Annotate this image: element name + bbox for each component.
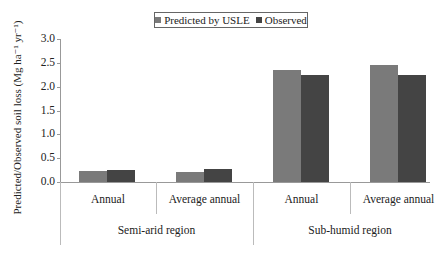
y-tick-0-5: 0.5	[25, 151, 55, 163]
y-tick-mark	[57, 39, 61, 40]
y-tick-mark	[57, 134, 61, 135]
y-tick-2: 2.0	[25, 80, 55, 92]
bar-subhumid-annual-predicted	[273, 70, 301, 182]
legend-item-observed: Observed	[256, 14, 307, 26]
group-label-subhumid: Sub-humid region	[253, 224, 447, 236]
y-tick-0: 0.0	[25, 175, 55, 187]
y-axis-label: Predicted/Observed soil loss (Mg ha⁻¹ yr…	[11, 25, 24, 215]
legend-label-predicted: Predicted by USLE	[164, 14, 250, 26]
category-label: Annual	[253, 193, 350, 205]
bar-subhumid-avg-predicted	[370, 65, 398, 182]
bar-subhumid-avg-observed	[398, 75, 426, 182]
y-tick-mark	[57, 63, 61, 64]
y-tick-mark	[57, 111, 61, 112]
legend-swatch-observed	[256, 17, 262, 23]
bar-subhumid-annual-observed	[301, 75, 329, 182]
category-label: Average annual	[156, 193, 253, 205]
bar-semiarid-annual-observed	[107, 170, 135, 182]
y-tick-2-5: 2.5	[25, 56, 55, 68]
legend: Predicted by USLE Observed	[154, 12, 308, 28]
x-axis-line	[60, 182, 430, 183]
y-tick-mark	[57, 158, 61, 159]
legend-swatch-predicted	[155, 17, 161, 23]
bar-semiarid-avg-observed	[204, 169, 232, 182]
category-label: Annual	[60, 193, 156, 205]
y-tick-1: 1.0	[25, 127, 55, 139]
category-label: Average annual	[350, 193, 447, 205]
y-tick-1-5: 1.5	[25, 104, 55, 116]
bar-semiarid-annual-predicted	[79, 171, 107, 182]
legend-item-predicted: Predicted by USLE	[155, 14, 250, 26]
group-label-semiarid: Semi-arid region	[60, 224, 253, 236]
bar-semiarid-avg-predicted	[176, 172, 204, 182]
legend-label-observed: Observed	[265, 14, 307, 26]
y-tick-mark	[57, 87, 61, 88]
y-tick-3: 3.0	[25, 32, 55, 44]
